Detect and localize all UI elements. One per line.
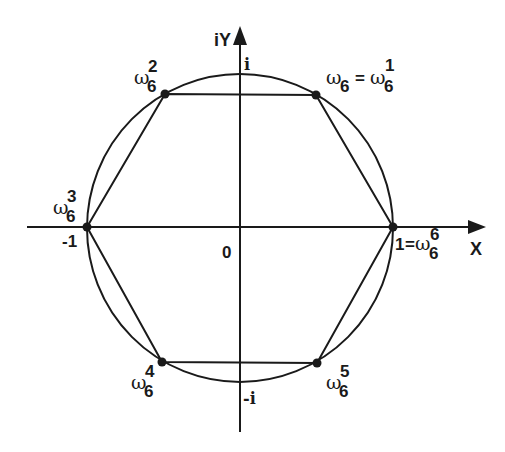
svg-text:6: 6 — [66, 207, 75, 226]
label-w3: ω 6 3 — [53, 187, 76, 226]
vertex-dot-w4 — [158, 358, 167, 367]
x-axis-arrow-icon — [468, 220, 486, 234]
svg-text:6: 6 — [147, 77, 156, 96]
svg-text:=: = — [355, 69, 365, 88]
svg-text:6: 6 — [430, 225, 439, 244]
svg-text:6: 6 — [429, 244, 438, 263]
svg-text:6: 6 — [340, 77, 349, 96]
label-w1: ω 6 = ω 6 1 — [326, 56, 394, 96]
svg-text:4: 4 — [145, 362, 155, 381]
svg-text:1: 1 — [385, 56, 394, 75]
vertex-dot-w1 — [312, 91, 321, 100]
roots-of-unity-diagram: iY X 0 i -i -1 ω 6 = ω 6 1 ω 6 2 ω 6 3 ω… — [0, 0, 505, 452]
svg-text:3: 3 — [67, 187, 76, 206]
y-axis-arrow-icon — [233, 26, 247, 45]
vertex-dot-w2 — [161, 90, 170, 99]
svg-text:6: 6 — [339, 382, 348, 401]
svg-text:1: 1 — [395, 235, 404, 254]
vertex-dot-w3 — [83, 223, 92, 232]
label-w2: ω 6 2 — [134, 57, 157, 96]
label-w5: ω 6 5 — [326, 362, 349, 401]
label-w4: ω 6 4 — [131, 362, 155, 401]
svg-text:2: 2 — [148, 57, 157, 76]
y-neg-label: -i — [243, 389, 256, 408]
x-neg-label: -1 — [62, 232, 77, 251]
vertex-dot-w5 — [313, 359, 322, 368]
svg-text:=: = — [405, 235, 415, 254]
svg-text:6: 6 — [384, 77, 393, 96]
y-pos-label: i — [244, 55, 250, 74]
origin-label: 0 — [222, 243, 231, 262]
svg-text:6: 6 — [144, 382, 153, 401]
x-axis-label: X — [470, 239, 482, 259]
y-axis-label: iY — [214, 30, 231, 50]
label-w6: 1 = ω 6 6 — [395, 225, 439, 263]
svg-text:5: 5 — [340, 362, 349, 381]
vertex-dot-w6 — [389, 223, 398, 232]
